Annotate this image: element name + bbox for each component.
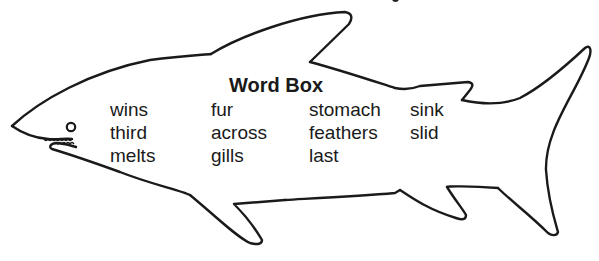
- shark-outline-icon: [0, 0, 599, 261]
- word-item: across: [211, 122, 267, 144]
- word-box-title: Word Box: [229, 74, 323, 97]
- word-item: feathers: [309, 122, 378, 144]
- word-item: sink: [410, 99, 444, 121]
- word-item: third: [110, 122, 147, 144]
- word-item: stomach: [309, 99, 381, 121]
- word-item: melts: [110, 145, 155, 167]
- word-item: slid: [410, 122, 439, 144]
- worksheet-figure: Word Box wins third melts fur across gil…: [0, 0, 599, 261]
- word-item: gills: [211, 145, 244, 167]
- word-item: last: [309, 145, 339, 167]
- word-item: fur: [211, 99, 233, 121]
- word-item: wins: [110, 99, 148, 121]
